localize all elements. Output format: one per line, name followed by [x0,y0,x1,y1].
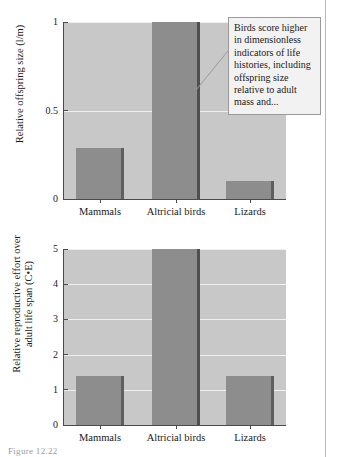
y-tick-top-0: 0 [53,194,64,204]
bar-bottom-lizards [226,376,274,425]
x-tickmark-bottom-altricial-birds [176,425,177,429]
callout-leader-line-top [196,44,232,90]
figure-caption: Figure 12.22 [8,446,58,456]
y-tick-bottom-5: 5 [53,244,64,254]
bar-top-mammals [76,148,124,199]
y-tick-top-0-label: 0 [53,193,58,204]
callout-offspring-size: Birds score higher in dimensionless indi… [228,17,321,115]
y-tickmark-bottom-1 [64,389,68,390]
y-tickmark-top-0 [64,199,68,200]
x-label-bottom-mammals: Mammals [79,432,121,443]
bar-bottom-mammals [76,376,124,425]
y-tickmark-top-1 [64,22,68,23]
y-tick-top-1: 1 [53,17,64,27]
x-label-bottom-altricial-birds: Altricial birds [147,432,206,443]
y-tickmark-bottom-0 [64,425,68,426]
y-tickmark-bottom-2 [64,354,68,355]
y-tick-top-0.5: 0.5 [46,106,65,116]
bar-bottom-altricial-birds [152,249,200,425]
bar-top-altricial-birds [152,22,200,199]
y-tick-bottom-3-label: 3 [53,313,58,324]
x-label-top-altricial-birds: Altricial birds [147,206,206,217]
x-label-top-mammals: Mammals [79,206,121,217]
chart-offspring-size: Relative offspring size (l/m) 1 0.5 0 Ma… [0,0,353,230]
y-tick-bottom-3: 3 [53,314,64,324]
x-tickmark-top-mammals [100,199,101,203]
y-axis-label-bottom: Relative reproductive effort over adult … [11,229,35,379]
x-tickmark-top-lizards [250,199,251,203]
y-tick-bottom-0: 0 [53,420,64,430]
y-tick-bottom-2: 2 [53,350,64,360]
y-axis-label-top: Relative offspring size (l/m) [14,4,26,164]
y-tick-bottom-2-label: 2 [53,349,58,360]
y-tick-bottom-1-label: 1 [53,384,58,395]
x-label-bottom-lizards: Lizards [234,432,266,443]
y-tick-top-0.5-label: 0.5 [46,105,59,116]
x-tickmark-bottom-mammals [100,425,101,429]
x-tickmark-bottom-lizards [250,425,251,429]
bar-top-lizards [226,181,274,199]
y-tick-bottom-4: 4 [53,279,64,289]
y-tickmark-bottom-5 [64,249,68,250]
y-tickmark-top-0.5 [64,110,68,111]
y-tick-top-1-label: 1 [53,16,58,27]
y-tick-bottom-0-label: 0 [53,419,58,430]
y-tick-bottom-5-label: 5 [53,243,58,254]
x-tickmark-top-altricial-birds [176,199,177,203]
x-label-top-lizards: Lizards [234,206,266,217]
plot-area-bottom: 5 4 3 2 1 0 Mammals Al [63,249,286,426]
y-tickmark-bottom-3 [64,319,68,320]
y-tick-bottom-1: 1 [53,385,64,395]
y-tickmark-bottom-4 [64,284,68,285]
y-tick-bottom-4-label: 4 [53,278,58,289]
chart-reproductive-effort: Relative reproductive effort over adult … [0,230,353,457]
